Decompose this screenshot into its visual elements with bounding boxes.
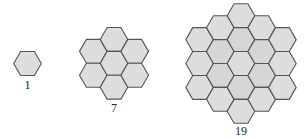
hexagon-groups: 1719: [14, 4, 297, 138]
group-count-label: 7: [111, 101, 117, 115]
hexagon-figure: 1719: [0, 0, 305, 138]
hexagon-cell: [14, 52, 42, 76]
hexagon-group-1: 1: [14, 52, 42, 92]
group-count-label: 1: [25, 78, 31, 92]
hexagon-group-19: 19: [186, 4, 296, 138]
hexagon-group-7: 7: [80, 27, 149, 115]
group-count-label: 19: [235, 124, 247, 138]
